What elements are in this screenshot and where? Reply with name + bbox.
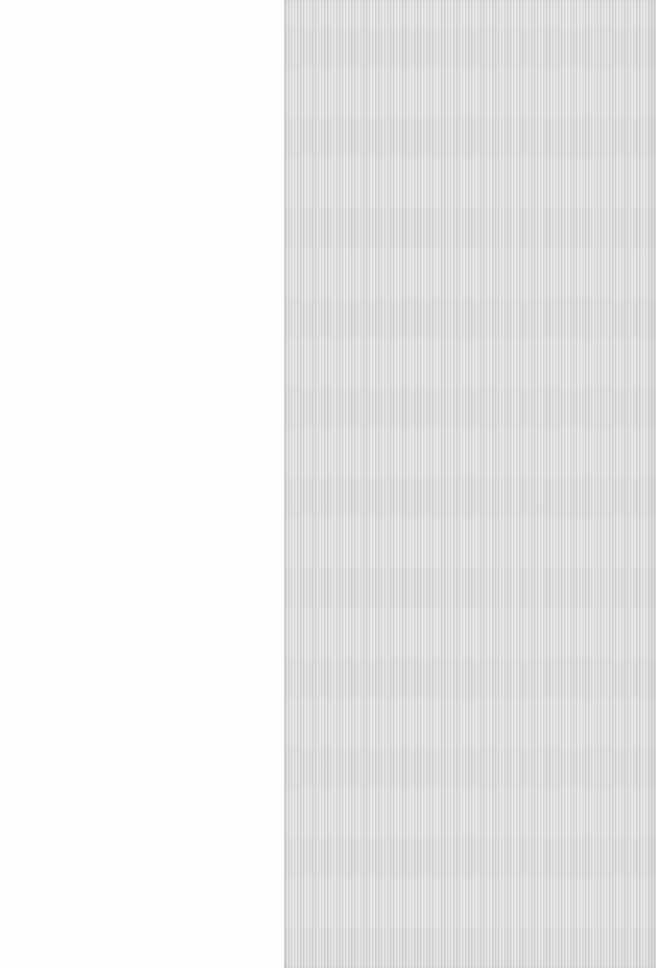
image-canvas (0, 0, 656, 968)
gray-striped-texture (284, 0, 656, 968)
blank-white-area (0, 0, 284, 968)
